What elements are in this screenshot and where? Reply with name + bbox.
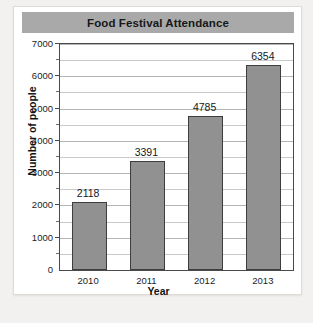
y-tick-mark [55,43,59,44]
chart-card: Food Festival Attendance Number of peopl… [13,6,302,295]
y-tick-mark [56,59,59,60]
bar-2011 [130,161,165,270]
y-tick-label: 0 [48,264,53,275]
plot-wrapper: 0100020003000400050006000700021182010339… [59,43,294,271]
y-tick-mark [55,75,59,76]
bar-value-label-2010: 2118 [77,187,100,199]
y-tick-mark [56,91,59,92]
y-tick-label: 3000 [32,167,53,178]
plot-area [59,43,294,271]
y-tick-mark [55,140,59,141]
bar-2012 [188,116,223,270]
chart-title: Food Festival Attendance [87,17,229,29]
bar-value-label-2012: 4785 [193,101,216,113]
y-tick-label: 4000 [32,134,53,145]
chart-title-banner: Food Festival Attendance [22,12,294,33]
y-tick-mark [55,237,59,238]
y-tick-mark [56,124,59,125]
gridline-major [60,44,293,45]
y-tick-mark [55,172,59,173]
y-tick-label: 2000 [32,199,53,210]
y-tick-mark [55,108,59,109]
y-tick-mark [56,221,59,222]
y-tick-mark [56,188,59,189]
y-tick-label: 7000 [32,38,53,49]
bar-2010 [72,202,107,270]
bar-value-label-2011: 3391 [135,146,158,158]
y-tick-mark [56,156,59,157]
y-tick-mark [55,204,59,205]
bar-value-label-2013: 6354 [251,50,274,62]
y-tick-label: 5000 [32,102,53,113]
bar-2013 [246,65,281,270]
x-axis-title: Year [14,285,303,297]
y-tick-label: 6000 [32,70,53,81]
y-tick-mark [56,253,59,254]
y-tick-label: 1000 [32,231,53,242]
